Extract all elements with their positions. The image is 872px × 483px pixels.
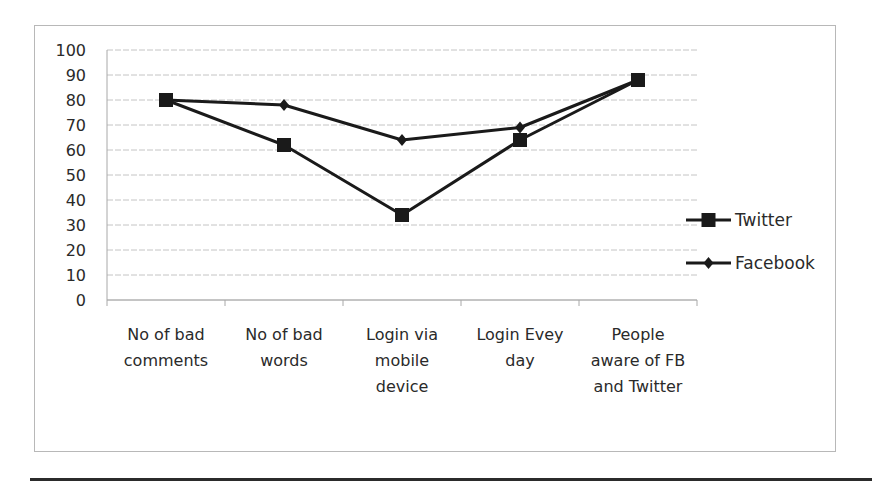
x-category-label: Login Eveyday xyxy=(476,325,563,370)
y-tick-label-10: 10 xyxy=(66,266,86,285)
x-category-label-line: device xyxy=(376,377,429,396)
legend-label-twitter: Twitter xyxy=(734,210,792,230)
y-tick-label-20: 20 xyxy=(66,241,86,260)
x-category-label-line: Login via xyxy=(366,325,438,344)
line-chart: 0102030405060708090100No of badcommentsN… xyxy=(0,0,872,483)
y-tick-label-0: 0 xyxy=(76,291,86,310)
y-tick-label-30: 30 xyxy=(66,216,86,235)
data-point-twitter xyxy=(395,208,409,222)
y-tick-label-70: 70 xyxy=(66,116,86,135)
x-category-label-line: and Twitter xyxy=(594,377,683,396)
series-facebook xyxy=(161,74,643,146)
x-category-label-line: day xyxy=(505,351,534,370)
gridlines xyxy=(107,50,697,300)
legend-marker-facebook xyxy=(704,257,714,269)
x-category-label-line: Login Evey xyxy=(476,325,563,344)
series-line-facebook xyxy=(166,80,638,140)
data-point-twitter xyxy=(159,93,173,107)
legend: TwitterFacebook xyxy=(686,210,815,273)
y-tick-label-40: 40 xyxy=(66,191,86,210)
x-category-label-line: No of bad xyxy=(245,325,322,344)
x-category-label-line: aware of FB xyxy=(591,351,686,370)
y-tick-label-80: 80 xyxy=(66,91,86,110)
x-category-label: No of badwords xyxy=(245,325,322,370)
y-tick-label-100: 100 xyxy=(55,41,86,60)
y-tick-label-50: 50 xyxy=(66,166,86,185)
x-axis-category-labels: No of badcommentsNo of badwordsLogin via… xyxy=(124,325,685,396)
data-point-facebook xyxy=(279,99,289,111)
x-category-label: Login viamobiledevice xyxy=(366,325,438,396)
x-category-label-line: No of bad xyxy=(127,325,204,344)
x-category-label-line: comments xyxy=(124,351,208,370)
x-category-label-line: mobile xyxy=(375,351,429,370)
x-category-label-line: People xyxy=(611,325,664,344)
data-point-twitter xyxy=(277,138,291,152)
bottom-divider-rule xyxy=(30,478,872,481)
y-axis-tick-labels: 0102030405060708090100 xyxy=(55,41,86,310)
y-tick-label-90: 90 xyxy=(66,66,86,85)
y-tick-label-60: 60 xyxy=(66,141,86,160)
data-point-facebook xyxy=(397,134,407,146)
x-category-label: No of badcomments xyxy=(124,325,208,370)
data-point-facebook xyxy=(515,122,525,134)
x-category-label-line: words xyxy=(260,351,308,370)
data-point-twitter xyxy=(513,133,527,147)
data-point-twitter xyxy=(631,73,645,87)
x-category-label: Peopleaware of FBand Twitter xyxy=(591,325,686,396)
legend-marker-twitter xyxy=(702,213,716,227)
legend-label-facebook: Facebook xyxy=(735,253,815,273)
